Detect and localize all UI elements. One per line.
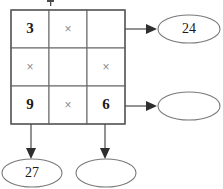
top-crop-artifact-stem	[50, 0, 51, 6]
puzzle-canvas: 3 × × × 9 × 6	[0, 0, 223, 189]
result-row-3[interactable]	[158, 92, 220, 120]
arrow-col-1	[26, 124, 36, 159]
arrow-col-1-head-icon	[26, 148, 36, 159]
result-col-1[interactable]: 27	[2, 159, 62, 187]
grid-cell-r2c2[interactable]	[49, 48, 87, 86]
grid-cell-text-r2c1: ×	[26, 60, 33, 74]
result-col-3-ellipse[interactable]	[76, 159, 136, 187]
arrow-row-3	[125, 101, 157, 111]
result-col-1-text: 27	[25, 165, 39, 180]
result-col-3[interactable]	[76, 159, 136, 187]
grid-cell-text-r3c2: ×	[64, 98, 71, 112]
grid-cell-text-r2c3: ×	[102, 60, 109, 74]
arrow-col-3-head-icon	[100, 148, 110, 159]
result-row-1[interactable]: 24	[158, 15, 220, 43]
arrow-col-3	[100, 124, 110, 159]
arrow-row-3-head-icon	[146, 101, 157, 111]
grid-cell-r1c3[interactable]	[87, 10, 125, 48]
arrow-row-1-head-icon	[146, 24, 157, 34]
grid-cell-text-r3c1: 9	[26, 96, 34, 112]
arrow-row-1	[125, 24, 157, 34]
grid-cell-text-r3c3: 6	[102, 96, 110, 112]
multiplication-grid-puzzle: 3 × × × 9 × 6	[0, 0, 223, 189]
result-row-3-ellipse[interactable]	[158, 92, 220, 120]
grid-cell-text-r1c2: ×	[64, 22, 71, 36]
grid-cell-text-r1c1: 3	[26, 20, 34, 36]
result-row-1-text: 24	[182, 21, 196, 36]
